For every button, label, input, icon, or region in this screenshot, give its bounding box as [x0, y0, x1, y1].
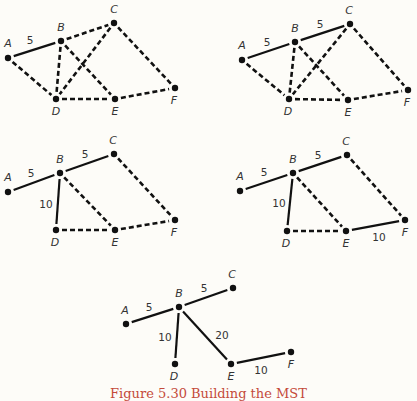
node-label-C: C: [345, 4, 353, 17]
edge-BD-selected: [288, 179, 293, 225]
edge-weight-AB: 5: [261, 166, 268, 178]
node-label-A: A: [3, 37, 12, 50]
node-E: [112, 227, 118, 233]
edge-BE-candidate: [299, 46, 344, 95]
edge-AB-selected: [132, 309, 174, 322]
edge-weight-BD: 10: [158, 331, 171, 343]
node-D: [172, 361, 178, 367]
node-label-D: D: [282, 237, 290, 250]
node-label-F: F: [288, 358, 295, 371]
edge-weight-AB: 5: [27, 34, 34, 46]
node-label-E: E: [112, 236, 119, 249]
node-label-E: E: [112, 105, 119, 118]
edge-CF-candidate: [118, 27, 171, 83]
edge-weight-BC: 5: [82, 148, 89, 160]
edge-weight-AB: 5: [28, 167, 35, 179]
node-label-F: F: [171, 226, 178, 239]
edge-weight-BC: 5: [317, 18, 324, 30]
edge-EF-candidate: [121, 89, 169, 98]
node-label-A: A: [235, 170, 244, 183]
node-C: [347, 21, 353, 27]
node-label-C: C: [110, 3, 118, 16]
node-D: [53, 96, 59, 102]
node-E: [228, 361, 234, 367]
edge-BE-candidate: [64, 177, 111, 225]
node-label-B: B: [289, 153, 297, 166]
edge-AB-selected: [14, 43, 56, 56]
edge-CF-candidate: [354, 29, 404, 86]
node-B: [58, 38, 64, 44]
node-F: [172, 217, 178, 223]
edge-weight-BD: 10: [272, 197, 285, 209]
node-label-C: C: [109, 134, 117, 147]
node-label-B: B: [175, 287, 183, 300]
node-label-E: E: [345, 106, 352, 119]
edge-weight-AB: 5: [264, 36, 271, 48]
node-label-F: F: [404, 96, 411, 109]
edge-BD-candidate: [290, 48, 295, 93]
edge-AD-candidate: [13, 62, 52, 95]
edge-BD-selected: [175, 313, 178, 358]
node-C: [111, 151, 117, 157]
node-B: [290, 170, 296, 176]
graph-panel-step-3: 5510ABCDEF: [3, 134, 178, 249]
node-label-F: F: [171, 94, 178, 107]
node-C: [111, 20, 117, 26]
graph-panel-step-4: 551010ABCDEF: [235, 135, 409, 250]
node-B: [292, 39, 298, 45]
node-B: [57, 170, 63, 176]
edge-weight-BC: 5: [315, 149, 322, 161]
edge-weight-EF: 10: [254, 364, 267, 376]
node-label-A: A: [3, 171, 12, 184]
edge-DE-candidate: [295, 99, 342, 100]
node-B: [176, 304, 182, 310]
node-E: [112, 96, 118, 102]
node-C: [344, 152, 350, 158]
node-F: [402, 217, 408, 223]
node-label-F: F: [402, 226, 409, 239]
node-F: [405, 87, 411, 93]
node-A: [237, 188, 243, 194]
graph-panel-step-1: 5ABCDEF: [3, 3, 178, 118]
node-A: [5, 189, 11, 195]
node-label-A: A: [120, 304, 129, 317]
node-label-E: E: [228, 370, 235, 383]
node-label-D: D: [170, 370, 178, 383]
graph-panel-step-5-final-mst: 55102010ABCDEF: [120, 268, 295, 383]
node-label-C: C: [228, 268, 236, 281]
edge-CD-candidate: [293, 29, 346, 95]
node-label-E: E: [343, 237, 350, 250]
node-label-D: D: [52, 105, 60, 118]
edge-BE-candidate: [297, 177, 342, 226]
node-F: [172, 85, 178, 91]
edge-BE-candidate: [65, 45, 111, 94]
node-D: [53, 227, 59, 233]
edge-CF-candidate: [118, 158, 171, 215]
edge-weight-BC: 5: [201, 282, 208, 294]
node-F: [288, 349, 294, 355]
edge-EF-candidate: [354, 91, 402, 99]
edge-weight-AB: 5: [146, 301, 153, 313]
edge-weight-BE: 20: [215, 329, 228, 341]
node-label-A: A: [237, 39, 246, 52]
edge-EF-selected: [237, 353, 285, 363]
graph-panel-step-2: 55ABCDEF: [237, 4, 411, 119]
node-D: [286, 96, 292, 102]
node-E: [345, 97, 351, 103]
edge-BD-selected: [56, 179, 59, 224]
node-label-D: D: [51, 236, 59, 249]
node-D: [284, 228, 290, 234]
edge-EF-candidate: [121, 221, 169, 229]
node-C: [230, 285, 236, 291]
node-A: [5, 55, 11, 61]
node-A: [123, 321, 129, 327]
node-label-B: B: [57, 21, 65, 34]
node-A: [239, 57, 245, 63]
edge-EF-selected: [352, 221, 399, 230]
edge-CF-candidate: [351, 159, 401, 215]
node-label-D: D: [284, 105, 292, 118]
edge-weight-BD: 10: [39, 198, 52, 210]
edge-BD-candidate: [57, 47, 61, 93]
node-label-B: B: [291, 22, 299, 35]
